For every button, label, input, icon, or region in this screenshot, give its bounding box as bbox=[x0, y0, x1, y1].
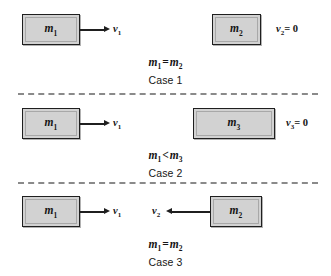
block-m1-case2: m1 bbox=[22, 108, 80, 139]
velocity-arrow-head-v1-case1 bbox=[104, 26, 110, 32]
velocity-label-v1-case3: v1 bbox=[113, 205, 121, 219]
mass-relation-case3: m1=m2 bbox=[0, 238, 331, 253]
case-divider-2 bbox=[18, 182, 318, 184]
velocity-label-v2-case1: v2= 0 bbox=[276, 23, 298, 37]
velocity-label-v3-case2: v3= 0 bbox=[286, 117, 308, 131]
case-title-case1: Case 1 bbox=[0, 74, 331, 86]
block-mass-label: m1 bbox=[23, 204, 79, 219]
block-mass-label: m2 bbox=[213, 22, 260, 37]
mass-relation-case2: m1<m3 bbox=[0, 149, 331, 164]
velocity-arrow-v2-case3 bbox=[172, 211, 210, 213]
block-m2-case1: m2 bbox=[212, 14, 261, 45]
block-m1-case3: m1 bbox=[22, 196, 80, 227]
block-m3-case2: m3 bbox=[193, 108, 275, 139]
block-m2-case3: m2 bbox=[210, 196, 262, 227]
block-mass-label: m1 bbox=[23, 116, 79, 131]
velocity-label-v1-case1: v1 bbox=[113, 23, 121, 37]
velocity-label-v2-case3: v2 bbox=[152, 205, 160, 219]
velocity-arrow-head-v1-case2 bbox=[104, 120, 110, 126]
mass-relation-case1: m1=m2 bbox=[0, 56, 331, 71]
velocity-arrow-head-v1-case3 bbox=[104, 208, 110, 214]
velocity-arrow-v1-case1 bbox=[80, 29, 106, 31]
case-title-case3: Case 3 bbox=[0, 256, 331, 268]
velocity-arrow-v1-case3 bbox=[80, 211, 106, 213]
block-mass-label: m2 bbox=[211, 204, 261, 219]
case-title-case2: Case 2 bbox=[0, 167, 331, 179]
velocity-arrow-v1-case2 bbox=[80, 123, 106, 125]
block-mass-label: m1 bbox=[23, 22, 79, 37]
case-divider-1 bbox=[18, 93, 318, 95]
block-mass-label: m3 bbox=[194, 116, 274, 131]
block-m1-case1: m1 bbox=[22, 14, 80, 45]
collision-cases-figure: m1 v1 m2 v2= 0 m1=m2 Case 1 m1 v1 m3 v3=… bbox=[0, 0, 331, 276]
velocity-label-v1-case2: v1 bbox=[113, 117, 121, 131]
